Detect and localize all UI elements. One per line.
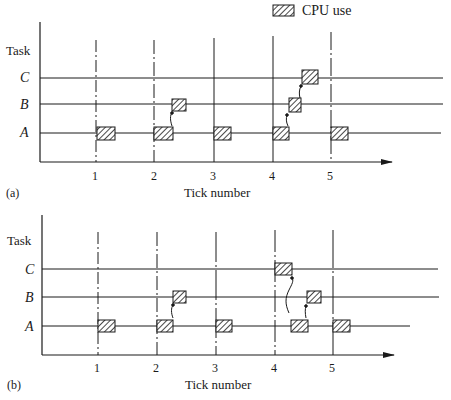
transition-arrow-icon bbox=[286, 277, 293, 313]
cpu-block-a-task-a-4 bbox=[273, 127, 289, 140]
cpu-block-b-task-a-4 bbox=[291, 320, 308, 332]
transition-dot-icon bbox=[171, 112, 174, 115]
transition-dot-icon bbox=[172, 304, 175, 307]
tick-label-4: 4 bbox=[269, 169, 275, 183]
transition-dot-icon bbox=[300, 85, 303, 88]
transition-arrow-icon bbox=[305, 306, 306, 318]
x-axis-title: Tick number bbox=[185, 377, 252, 392]
panel-a bbox=[40, 22, 443, 162]
tick-label-2: 2 bbox=[151, 169, 157, 183]
cpu-block-b-task-a-3 bbox=[216, 320, 232, 332]
task-label-c: C bbox=[25, 262, 35, 277]
legend-label: CPU use bbox=[302, 3, 351, 18]
task-label-c: C bbox=[20, 70, 30, 85]
cpu-block-b-task-b-1 bbox=[173, 291, 186, 303]
cpu-block-b-task-a-1 bbox=[98, 320, 115, 332]
tick-label-3: 3 bbox=[212, 361, 218, 375]
tick-label-4: 4 bbox=[271, 361, 277, 375]
cpu-block-a-task-a-3 bbox=[214, 127, 231, 140]
task-label-a: A bbox=[19, 125, 29, 140]
tick-label-3: 3 bbox=[210, 169, 216, 183]
transition-arrow-icon bbox=[299, 86, 301, 98]
legend: CPU use bbox=[273, 3, 351, 18]
transition-dot-icon bbox=[291, 277, 294, 280]
hatched-box-icon bbox=[273, 5, 294, 16]
cpu-block-a-task-a-5 bbox=[331, 127, 348, 140]
transition-arrow-icon bbox=[172, 305, 174, 318]
task-label-a: A bbox=[24, 319, 34, 334]
panel-a-blocks bbox=[97, 70, 348, 140]
panel-a-labels: Task C B A 1 2 3 4 5 (a) Tick number bbox=[6, 43, 333, 200]
y-axis-title: Task bbox=[6, 43, 31, 58]
diagram-canvas: CPU use Task C B A bbox=[0, 0, 451, 400]
y-axis-title: Task bbox=[7, 233, 32, 248]
panel-caption: (b) bbox=[7, 378, 21, 392]
panel-b bbox=[42, 215, 439, 355]
cpu-block-a-task-b-2 bbox=[289, 98, 301, 112]
tick-label-5: 5 bbox=[327, 169, 333, 183]
cpu-block-b-task-a-2 bbox=[157, 320, 173, 332]
panel-caption: (a) bbox=[6, 186, 19, 200]
cpu-block-b-task-a-5 bbox=[333, 320, 350, 332]
transition-dot-icon bbox=[286, 114, 289, 117]
cpu-block-a-task-b-1 bbox=[172, 99, 186, 111]
tick-label-1: 1 bbox=[94, 361, 100, 375]
x-axis-title: Tick number bbox=[184, 185, 251, 200]
cpu-block-a-task-a-1 bbox=[97, 127, 115, 140]
panel-a-transitions bbox=[171, 85, 303, 126]
cpu-block-b-task-b-2 bbox=[307, 291, 321, 303]
cpu-block-b-task-c-1 bbox=[275, 263, 292, 275]
tick-label-2: 2 bbox=[153, 361, 159, 375]
cpu-block-a-task-c-1 bbox=[302, 70, 318, 84]
task-label-b: B bbox=[25, 290, 34, 305]
tick-label-5: 5 bbox=[329, 361, 335, 375]
tick-label-1: 1 bbox=[92, 169, 98, 183]
transition-dot-icon bbox=[305, 305, 308, 308]
task-label-b: B bbox=[20, 97, 29, 112]
cpu-block-a-task-a-2 bbox=[154, 127, 173, 140]
